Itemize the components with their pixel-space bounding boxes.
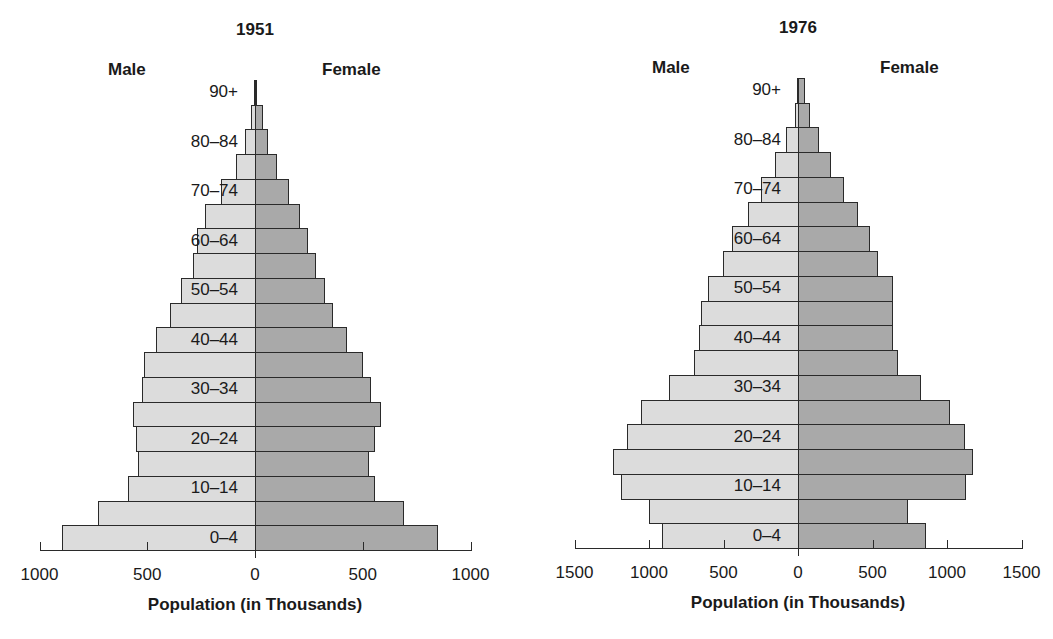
male-bar	[170, 303, 255, 329]
chart-title: 1951	[195, 20, 315, 40]
age-group-label: 30–34	[158, 379, 238, 399]
x-tick-label: 500	[112, 565, 182, 585]
female-bar	[255, 204, 300, 230]
female-label: Female	[880, 58, 939, 78]
female-label: Female	[322, 60, 381, 80]
female-bar	[798, 202, 858, 228]
center-axis-line	[255, 80, 256, 558]
female-bar	[798, 474, 966, 500]
age-group-label: 40–44	[158, 330, 238, 350]
x-axis-label: Population (in Thousands)	[95, 595, 415, 615]
female-bar	[255, 426, 375, 452]
age-group-label: 50–54	[701, 278, 781, 298]
female-bar	[798, 127, 819, 153]
x-tick	[471, 542, 472, 551]
male-bar	[701, 301, 798, 327]
chart-title: 1976	[738, 18, 858, 38]
male-label: Male	[108, 60, 146, 80]
age-group-label: 70–74	[701, 179, 781, 199]
male-bar	[133, 402, 255, 428]
x-tick-label: 1000	[614, 563, 684, 583]
x-tick-label: 1000	[436, 565, 506, 585]
male-bar	[138, 451, 255, 477]
x-tick	[724, 540, 725, 549]
female-bar	[798, 78, 805, 104]
male-bar	[193, 253, 255, 279]
x-tick	[255, 542, 256, 551]
x-tick	[575, 540, 576, 549]
x-tick-label: 1000	[5, 565, 75, 585]
female-bar	[798, 301, 893, 327]
female-bar	[255, 402, 381, 428]
center-axis-line	[798, 78, 799, 556]
male-bar	[723, 251, 798, 277]
age-group-label: 0–4	[701, 526, 781, 546]
female-bar	[255, 451, 369, 477]
female-bar	[798, 103, 810, 129]
x-tick-label: 0	[220, 565, 290, 585]
female-bar	[798, 276, 893, 302]
x-tick	[649, 540, 650, 549]
female-bar	[255, 278, 325, 304]
female-bar	[255, 105, 263, 131]
x-tick-label: 500	[689, 563, 759, 583]
female-bar	[255, 476, 375, 502]
x-tick-label: 0	[763, 563, 833, 583]
female-bar	[255, 377, 371, 403]
age-group-label: 90+	[701, 80, 781, 100]
female-bar	[798, 523, 926, 549]
female-bar	[798, 499, 908, 525]
age-group-label: 10–14	[158, 478, 238, 498]
age-group-label: 70–74	[158, 181, 238, 201]
female-bar	[255, 179, 289, 205]
female-bar	[798, 177, 844, 203]
age-group-label: 80–84	[158, 132, 238, 152]
age-group-label: 50–54	[158, 280, 238, 300]
male-bar	[98, 501, 255, 527]
female-bar	[255, 501, 404, 527]
x-tick	[873, 540, 874, 549]
x-tick-label: 1500	[540, 563, 610, 583]
x-tick	[147, 542, 148, 551]
x-tick	[40, 542, 41, 551]
age-group-label: 60–64	[158, 231, 238, 251]
male-label: Male	[652, 58, 690, 78]
x-axis-label: Population (in Thousands)	[638, 593, 958, 613]
age-group-label: 20–24	[158, 429, 238, 449]
age-group-label: 90+	[158, 82, 238, 102]
x-tick	[1022, 540, 1023, 549]
female-bar	[798, 400, 950, 426]
female-bar	[255, 253, 316, 279]
male-bar	[205, 204, 255, 230]
female-bar	[798, 449, 973, 475]
female-bar	[255, 228, 308, 254]
age-group-label: 40–44	[701, 328, 781, 348]
age-group-label: 30–34	[701, 377, 781, 397]
female-bar	[255, 352, 363, 378]
female-bar	[255, 303, 333, 329]
male-bar	[144, 352, 255, 378]
age-group-label: 60–64	[701, 229, 781, 249]
x-tick-label: 500	[838, 563, 908, 583]
female-bar	[255, 154, 277, 180]
female-bar	[798, 152, 831, 178]
female-bar	[798, 226, 870, 252]
x-tick	[363, 542, 364, 551]
male-bar	[613, 449, 798, 475]
female-bar	[255, 525, 438, 551]
male-bar	[786, 127, 798, 153]
x-tick-label: 500	[328, 565, 398, 585]
female-bar	[798, 350, 898, 376]
x-tick-label: 1500	[987, 563, 1053, 583]
female-bar	[798, 375, 921, 401]
age-group-label: 0–4	[158, 528, 238, 548]
male-bar	[641, 400, 798, 426]
age-group-label: 10–14	[701, 476, 781, 496]
female-bar	[798, 251, 878, 277]
female-bar	[798, 325, 893, 351]
male-bar	[245, 129, 255, 155]
male-bar	[236, 154, 255, 180]
age-group-label: 80–84	[701, 130, 781, 150]
male-bar	[649, 499, 798, 525]
x-tick	[798, 540, 799, 549]
